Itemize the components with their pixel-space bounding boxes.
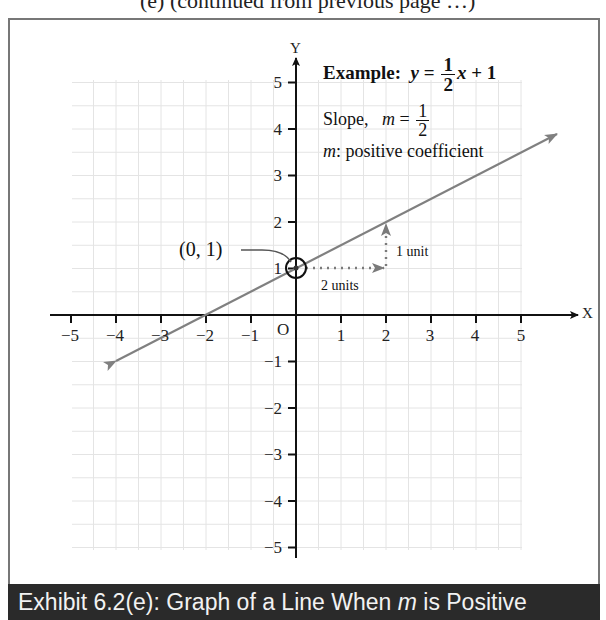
line-graph bbox=[0, 0, 606, 620]
y-axis-label: Y bbox=[290, 40, 301, 57]
run-label: 2 units bbox=[321, 278, 359, 294]
x-tick-label: 5 bbox=[506, 326, 536, 346]
coefficient-note: m: positive coefficient bbox=[323, 141, 484, 162]
y-tick-label: −4 bbox=[256, 492, 282, 512]
x-tick-label: −2 bbox=[190, 326, 220, 346]
example-equation: Example: y = 12x + 1 bbox=[323, 55, 496, 94]
y-tick-label: 1 bbox=[256, 259, 282, 279]
y-tick-label: 5 bbox=[256, 73, 282, 93]
intercept-dot bbox=[294, 266, 299, 271]
x-tick-label: 1 bbox=[326, 326, 356, 346]
y-tick-label: 3 bbox=[256, 166, 282, 186]
x-tick-label: −4 bbox=[100, 326, 130, 346]
rise-label: 1 unit bbox=[396, 244, 428, 260]
x-tick-label: 3 bbox=[415, 326, 445, 346]
x-tick-label: 2 bbox=[371, 326, 401, 346]
x-tick-label: −1 bbox=[235, 326, 265, 346]
figure-caption: Exhibit 6.2(e): Graph of a Line When m i… bbox=[8, 584, 600, 620]
point-label: (0, 1) bbox=[179, 238, 222, 261]
x-tick-label: 4 bbox=[460, 326, 490, 346]
y-tick-label: −1 bbox=[256, 352, 282, 372]
slope-label: Slope, m = 12 bbox=[323, 102, 431, 139]
y-tick-label: −2 bbox=[256, 399, 282, 419]
origin-label: O bbox=[277, 320, 289, 340]
x-tick-label: −3 bbox=[145, 326, 175, 346]
y-tick-label: 4 bbox=[256, 120, 282, 140]
y-tick-label: −3 bbox=[256, 445, 282, 465]
x-axis-label: X bbox=[582, 305, 593, 322]
y-tick-label: −5 bbox=[256, 538, 282, 558]
x-tick-label: −5 bbox=[55, 326, 85, 346]
y-tick-label: 2 bbox=[256, 213, 282, 233]
